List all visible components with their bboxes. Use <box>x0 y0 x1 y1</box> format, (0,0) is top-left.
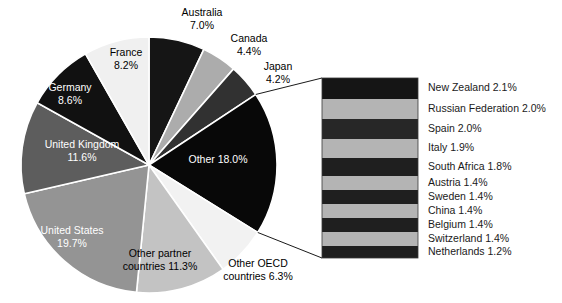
callout-legend-label: South Africa 1.8% <box>428 160 511 172</box>
callout-legend-labels: New Zealand 2.1%Russian Federation 2.0%S… <box>428 81 546 257</box>
pie-chart-figure: Australia7.0%Canada4.4%Japan4.2%Other 18… <box>0 0 562 303</box>
callout-bar-segment[interactable] <box>322 78 418 99</box>
callout-legend-label: Belgium 1.4% <box>428 218 493 230</box>
callout-stacked-bar <box>322 78 418 258</box>
callout-bar-segment[interactable] <box>322 232 418 246</box>
pie-slice-label: Other 18.0% <box>189 153 248 165</box>
callout-legend-label: Italy 1.9% <box>428 141 474 153</box>
callout-legend-label: China 1.4% <box>428 204 482 216</box>
callout-bar-segment[interactable] <box>322 190 418 204</box>
callout-legend-label: Austria 1.4% <box>428 176 488 188</box>
callout-bar-segment[interactable] <box>322 99 418 119</box>
callout-legend-label: New Zealand 2.1% <box>428 81 517 93</box>
callout-bar-segment[interactable] <box>322 176 418 190</box>
pie-slice-label: Japan4.2% <box>264 60 293 85</box>
pie-slice-label: Other partnercountries 11.3% <box>123 247 198 272</box>
pie-slice-label: France8.2% <box>110 46 143 71</box>
callout-legend-label: Netherlands 1.2% <box>428 245 511 257</box>
callout-bar-segment[interactable] <box>322 158 418 176</box>
callout-bar-segment[interactable] <box>322 204 418 218</box>
callout-legend-label: Switzerland 1.4% <box>428 232 509 244</box>
callout-leader-line <box>258 232 322 258</box>
callout-bar-segment[interactable] <box>322 246 418 258</box>
pie-slice-label: Other OECDcountries 6.3% <box>223 257 292 282</box>
callout-legend-label: Spain 2.0% <box>428 122 482 134</box>
callout-legend-label: Sweden 1.4% <box>428 190 493 202</box>
callout-legend-label: Russian Federation 2.0% <box>428 102 546 114</box>
pie-slice-label: Canada4.4% <box>231 32 268 57</box>
callout-bar-segment[interactable] <box>322 119 418 139</box>
callout-bar-segment[interactable] <box>322 139 418 158</box>
pie-slice-label: Australia7.0% <box>182 6 223 31</box>
callout-bar-segment[interactable] <box>322 218 418 232</box>
pie-chart-svg: Australia7.0%Canada4.4%Japan4.2%Other 18… <box>0 0 562 303</box>
